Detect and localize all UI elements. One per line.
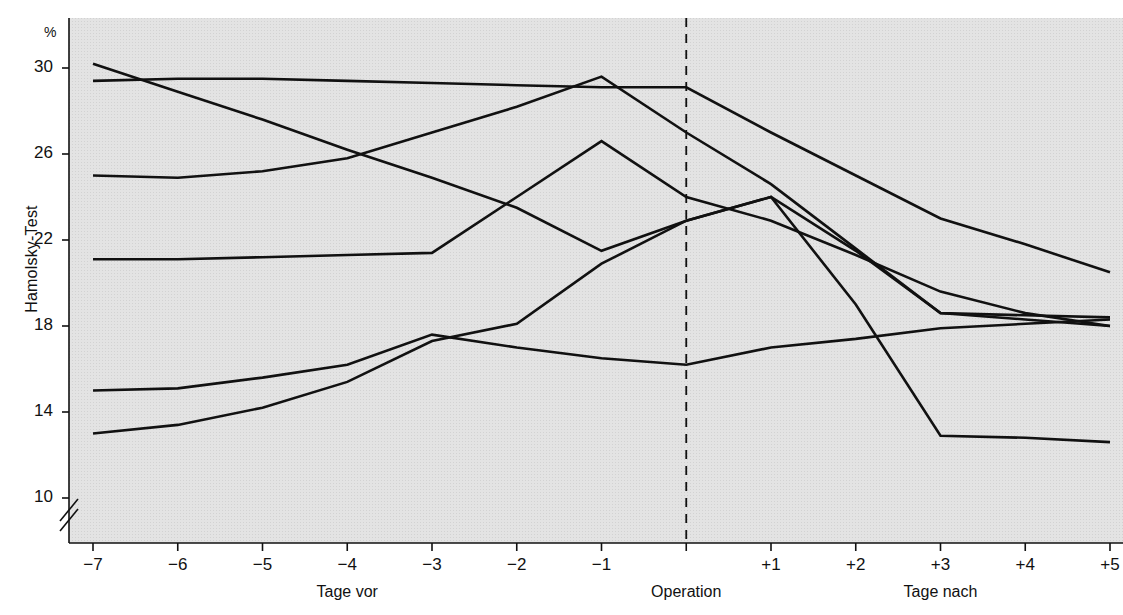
x-group-label: Tage nach — [861, 583, 1021, 601]
y-tick-label: 26 — [13, 143, 53, 163]
y-tick-label: 10 — [13, 487, 53, 507]
x-group-label: Tage vor — [267, 583, 427, 601]
line-chart-plot — [0, 0, 1123, 615]
y-tick-label: 30 — [13, 57, 53, 77]
x-tick-label: −7 — [63, 555, 123, 575]
y-tick-label: 22 — [13, 229, 53, 249]
x-tick-label: −1 — [572, 555, 632, 575]
x-tick-label: +2 — [826, 555, 886, 575]
x-tick-label: −4 — [317, 555, 377, 575]
x-tick-label: +1 — [741, 555, 801, 575]
x-group-label: Operation — [606, 583, 766, 601]
x-tick-label: +3 — [911, 555, 971, 575]
x-tick-label: −2 — [487, 555, 547, 575]
x-tick-label: +5 — [1080, 555, 1123, 575]
x-tick-label: +4 — [995, 555, 1055, 575]
plot-texture — [69, 18, 1123, 543]
y-tick-label: 18 — [13, 315, 53, 335]
x-tick-label: −3 — [402, 555, 462, 575]
x-tick-label: −5 — [233, 555, 293, 575]
chart-figure: Hamolsky-Test % 101418222630 −7−6−5−4−3−… — [0, 0, 1123, 615]
x-tick-label: −6 — [148, 555, 208, 575]
y-tick-label: 14 — [13, 401, 53, 421]
